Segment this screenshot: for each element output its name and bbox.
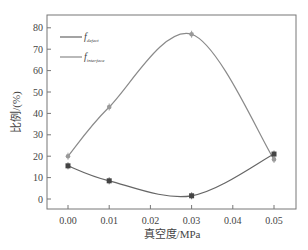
defect-data-point [107,178,112,183]
x-axis-label: 真空度/MPa [144,227,201,240]
x-axis-ticks: 0.000.010.020.030.040.05 [59,205,283,226]
x-tick-label: 0.01 [100,215,118,226]
interface-curve [68,33,274,159]
legend-label-interface: finterface [84,51,105,63]
y-tick-label: 50 [33,87,43,98]
y-tick-label: 0 [38,194,43,205]
x-tick-label: 0.02 [142,215,160,226]
interface-data-point [66,154,71,159]
y-tick-label: 60 [33,65,43,76]
plot-frame [47,15,296,209]
y-tick-label: 20 [33,151,43,162]
y-tick-label: 70 [33,44,43,55]
data-markers [66,31,277,200]
chart-container: 0.000.010.020.030.040.05 010203040506070… [0,0,308,250]
y-axis-label: 比例/(%) [9,91,23,133]
interface-data-point [272,157,277,162]
defect-data-point [66,163,71,168]
legend-label-defect: fdefect [84,31,99,43]
y-tick-label: 80 [33,22,43,33]
y-tick-label: 30 [33,129,43,140]
y-tick-label: 40 [33,108,43,119]
interface-data-point [107,105,112,110]
defect-data-point [272,152,277,157]
y-axis-ticks: 01020304050607080 [33,22,51,204]
x-tick-label: 0.00 [59,215,77,226]
legend: fdefect finterface [60,31,105,63]
x-tick-label: 0.05 [265,215,283,226]
interface-data-point [189,32,194,37]
defect-data-point [189,193,194,198]
defect-curve [68,154,274,197]
x-tick-label: 0.03 [183,215,201,226]
y-tick-label: 10 [33,172,43,183]
x-tick-label: 0.04 [224,215,242,226]
